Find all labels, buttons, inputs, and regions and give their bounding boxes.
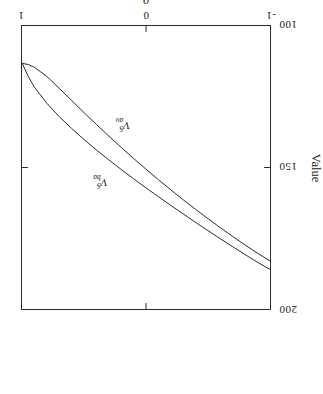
plot-area: VSba VSao bbox=[21, 25, 271, 310]
curve-label-v-ao-sup: S bbox=[120, 125, 124, 133]
x-axis-title: ρ bbox=[143, 0, 149, 10]
tick-marks bbox=[22, 26, 270, 309]
curve-label-v-ba: VSba bbox=[91, 175, 108, 187]
curve-label-v-ao-sub: ao bbox=[116, 117, 124, 125]
data-curve-v-ao bbox=[22, 63, 270, 261]
y-tick-label-200: 200 bbox=[279, 304, 307, 316]
x-tick-label-1: 1 bbox=[18, 10, 24, 22]
x-tick-label-neg1: -1 bbox=[266, 10, 276, 22]
y-tick-label-150: 150 bbox=[279, 162, 307, 174]
plot-svg bbox=[22, 26, 270, 309]
curve-label-v-ba-base: V bbox=[101, 177, 108, 189]
curve-label-v-ba-sub: ba bbox=[93, 174, 101, 182]
curve-label-v-ba-sup: S bbox=[97, 182, 101, 190]
data-curve-v-ba bbox=[22, 63, 270, 270]
x-tick-label-0: 0 bbox=[143, 10, 149, 22]
curve-label-v-ao-base: V bbox=[123, 120, 130, 132]
curve-label-v-ao: VSao bbox=[113, 118, 130, 130]
y-tick-label-100: 100 bbox=[279, 19, 307, 31]
y-axis-title: Value bbox=[308, 154, 323, 182]
